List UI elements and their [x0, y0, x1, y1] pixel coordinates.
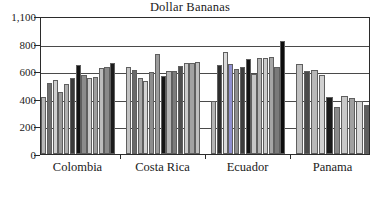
bar	[47, 83, 52, 154]
bar	[81, 75, 86, 154]
bar	[155, 54, 160, 154]
bar-group-panama	[296, 18, 370, 154]
bar	[99, 68, 104, 154]
bar	[319, 75, 326, 154]
y-axis-tick-label: 400	[0, 94, 36, 106]
bar	[234, 69, 239, 154]
x-axis-category-label: Colombia	[40, 160, 115, 175]
bar-group-costa-rica	[126, 18, 201, 154]
bar	[132, 70, 137, 154]
y-axis-tick-label: 200	[0, 121, 36, 133]
bar	[143, 81, 148, 154]
bar	[251, 74, 256, 154]
bar	[217, 65, 222, 154]
bar	[269, 57, 274, 154]
bar	[228, 64, 233, 154]
x-axis-group-separator	[205, 155, 206, 159]
bar	[126, 67, 131, 154]
bar	[240, 67, 245, 154]
bar	[93, 77, 98, 154]
bar	[263, 58, 268, 154]
bar	[356, 101, 363, 154]
bar	[311, 70, 318, 154]
bar	[189, 63, 194, 154]
bar	[326, 97, 333, 154]
bar	[149, 72, 154, 154]
bar-group-colombia	[41, 18, 116, 154]
bar	[364, 105, 371, 154]
bar	[334, 107, 341, 154]
bars-layer	[41, 18, 369, 154]
bar-group-ecuador	[211, 18, 286, 154]
bar	[341, 96, 348, 154]
y-axis-tick-mark	[34, 155, 40, 156]
bar	[166, 71, 171, 154]
bar	[138, 78, 143, 154]
bar	[296, 64, 303, 154]
bar	[104, 67, 109, 154]
bar	[280, 41, 285, 154]
bar	[76, 65, 81, 154]
bar	[53, 80, 58, 154]
x-axis-category-label: Panama	[295, 160, 370, 175]
x-axis-group-separator	[120, 155, 121, 159]
bar	[246, 59, 251, 154]
bar	[223, 52, 228, 154]
bar	[58, 92, 63, 154]
y-axis-tick-label: 0	[0, 149, 36, 161]
x-axis-category-label: Costa Rica	[125, 160, 200, 175]
y-axis-tick-label: 1,100	[0, 11, 36, 23]
bar	[211, 101, 216, 154]
bar	[41, 97, 46, 154]
bar	[349, 98, 356, 154]
bar	[195, 62, 200, 154]
bar	[161, 76, 166, 154]
bar	[87, 78, 92, 154]
bar	[110, 63, 115, 154]
x-axis-category-label: Ecuador	[210, 160, 285, 175]
y-axis-tick-label: 600	[0, 66, 36, 78]
bar	[178, 66, 183, 154]
bar	[184, 63, 189, 154]
bar	[274, 67, 279, 154]
chart-title: Dollar Bananas	[0, 0, 380, 15]
dollar-bananas-chart: Dollar Bananas 1,1008006004002000 Colomb…	[0, 0, 380, 197]
bar	[257, 58, 262, 154]
y-axis-tick-label: 800	[0, 39, 36, 51]
x-axis-group-separator	[290, 155, 291, 159]
bar	[64, 84, 69, 154]
bar	[304, 71, 311, 154]
bar	[172, 71, 177, 154]
bar	[70, 78, 75, 154]
plot-area	[40, 17, 370, 155]
